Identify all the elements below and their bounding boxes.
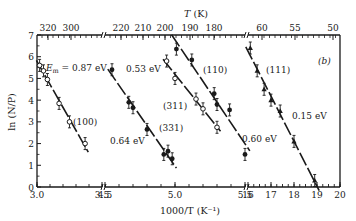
fit-line [108, 69, 177, 168]
data-point-open [37, 63, 42, 68]
data-point-filled [110, 67, 115, 72]
y-tick-label: 4 [28, 96, 34, 106]
data-point-triangle [255, 68, 260, 73]
fit-line [172, 35, 250, 151]
top-tick-label: 220 [112, 23, 129, 33]
y-tick-label: 1 [28, 161, 34, 171]
data-point-open [201, 107, 206, 112]
series-label-110: (110) [203, 65, 227, 75]
y-tick-label: 3 [28, 117, 34, 127]
series-label-331: (331) [159, 123, 183, 133]
data-point-filled [161, 152, 166, 157]
series-label-311: (311) [163, 101, 187, 111]
top-axis-title: T (K) [184, 8, 208, 19]
energy-label-015: 0.15 eV [292, 111, 327, 121]
data-point-filled [126, 100, 131, 105]
x-tick-label: 19 [311, 190, 323, 200]
data-point-filled [212, 91, 217, 96]
top-tick-label: 60 [256, 23, 268, 33]
x-tick-label: 4.5 [98, 190, 113, 200]
data-point-filled [131, 105, 136, 110]
top-tick-label: 50 [327, 23, 339, 33]
top-tick-label: 320 [39, 23, 56, 33]
arrhenius-plot: 012345673.03.53203004.55.05.522021020019… [0, 0, 356, 221]
x-axis-title: 1000/T (K⁻¹) [160, 205, 220, 216]
data-point-filled [215, 102, 220, 107]
y-tick-label: 6 [28, 52, 34, 62]
top-tick-label: 200 [156, 23, 173, 33]
data-point-filled [174, 47, 179, 52]
x-tick-label: 3.0 [30, 190, 45, 200]
data-point-open [57, 101, 62, 106]
top-tick-label: 55 [289, 23, 301, 33]
top-tick-label: 300 [62, 23, 79, 33]
data-point-open [45, 77, 50, 82]
x-tick-label: 20 [334, 190, 346, 200]
data-point-filled [189, 58, 194, 63]
data-point-open [173, 76, 178, 81]
top-tick-label: 190 [181, 23, 198, 33]
data-point-open [194, 97, 199, 102]
data-point-filled [170, 156, 175, 161]
fit-lines [36, 35, 319, 191]
y-tick-label: 7 [28, 31, 34, 41]
top-tick-label: 180 [205, 23, 222, 33]
energy-label-060: 0.60 eV [242, 134, 277, 144]
energy-label-053: 0.53 eV [126, 64, 161, 74]
data-point-filled [145, 127, 150, 132]
series-label-111: (111) [266, 65, 290, 75]
data-point-filled [243, 152, 248, 157]
series-label-100: (100) [73, 117, 97, 127]
data-point-open [67, 120, 72, 125]
data-point-triangle [248, 45, 253, 50]
x-tick-label: 17 [265, 190, 277, 200]
energy-label-064: 0.64 eV [110, 136, 145, 146]
top-tick-label: 210 [134, 23, 151, 33]
data-point-filled [166, 149, 171, 154]
y-tick-label: 5 [28, 74, 34, 84]
panel-label: (b) [318, 56, 331, 66]
data-point-open [83, 141, 88, 146]
data-point-open [164, 59, 169, 64]
y-axis-title: ln (N/P) [6, 93, 17, 131]
data-point-filled [227, 108, 232, 113]
data-point-open [215, 125, 220, 130]
energy-label-100: Em = 0.87 eV [45, 63, 107, 75]
x-tick-label: 5.0 [168, 190, 183, 200]
fit-line [36, 60, 88, 152]
y-tick-label: 2 [28, 139, 34, 149]
x-tick-label: 18 [288, 190, 300, 200]
x-tick-label: 16 [242, 190, 254, 200]
